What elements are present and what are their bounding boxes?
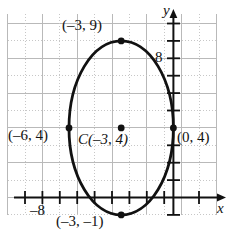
x-tick-label-neg8: –8	[30, 203, 45, 218]
grid-solid	[8, 14, 217, 215]
coordinate-plane-svg	[0, 0, 233, 236]
point-bottom-vertex	[118, 212, 125, 219]
label-top-vertex: (–3, 9)	[62, 18, 102, 33]
label-right-vertex: (0, 4)	[177, 130, 210, 145]
y-axis-name: y	[163, 3, 170, 18]
label-center: C(–3, 4)	[78, 132, 128, 147]
y-tick-label-8: 8	[155, 50, 163, 65]
label-bottom-vertex: (–3, –1)	[56, 214, 104, 229]
point-top-vertex	[118, 38, 125, 45]
x-axis	[14, 191, 226, 204]
x-axis-name: x	[217, 201, 224, 216]
point-right-vertex	[170, 125, 177, 132]
label-left-vertex: (–6, 4)	[8, 128, 48, 143]
point-left-vertex	[66, 125, 73, 132]
ellipse-graph-figure: (–3, 9) (–6, 4) C(–3, 4) (0, 4) (–3, –1)…	[0, 0, 233, 236]
